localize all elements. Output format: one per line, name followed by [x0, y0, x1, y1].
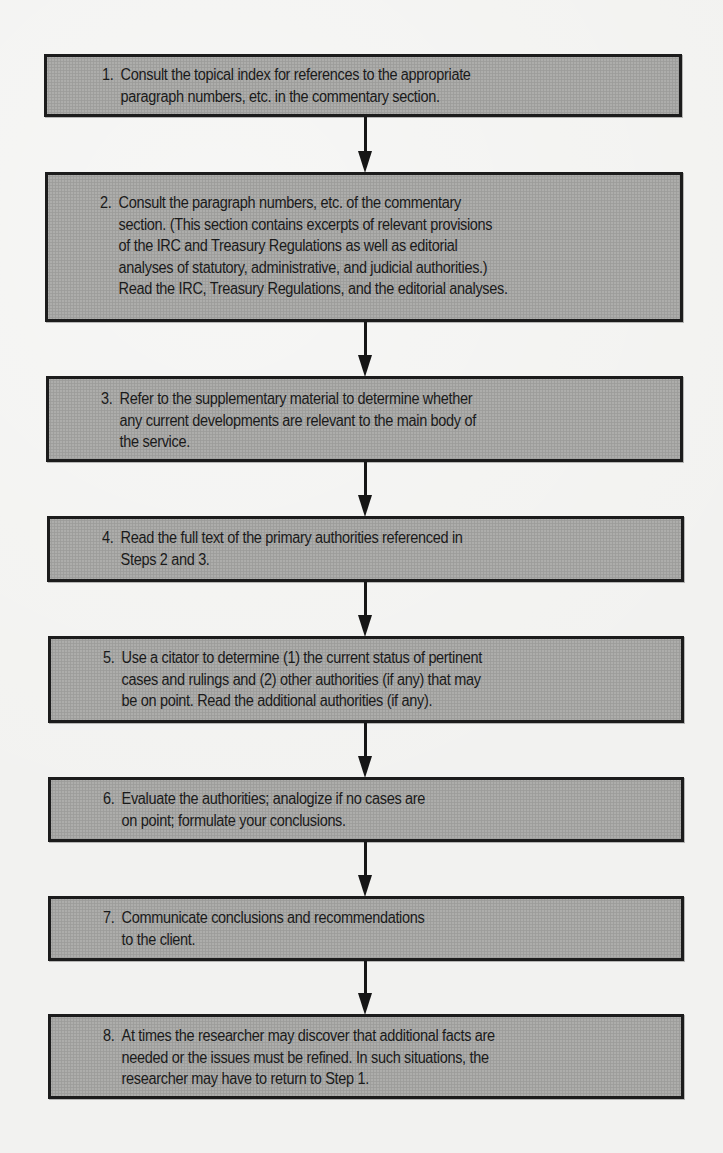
- arrow-5-to-6: [358, 723, 372, 778]
- step-6-number: 6.: [103, 788, 114, 810]
- arrow-6-to-7: [358, 842, 372, 897]
- arrowhead-icon: [358, 615, 372, 637]
- step-3-line-2: any current developments are relevant to…: [101, 410, 476, 432]
- step-4-text: 4.Read the full text of the primary auth…: [102, 527, 622, 570]
- step-2-line-5: Read the IRC, Treasury Regulations, and …: [100, 278, 508, 300]
- step-7-line-2: to the client.: [103, 929, 195, 951]
- arrowhead-icon: [358, 355, 372, 377]
- arrow-4-to-5: [358, 582, 372, 637]
- step-2-line-1: Consult the paragraph numbers, etc. of t…: [100, 192, 461, 214]
- step-4-line-1: Read the full text of the primary author…: [102, 527, 463, 549]
- step-1-line-2: paragraph numbers, etc. in the commentar…: [102, 86, 440, 108]
- step-5-line-3: be on point. Read the additional authori…: [103, 690, 432, 712]
- arrowhead-icon: [358, 756, 372, 778]
- arrow-7-to-8: [358, 961, 372, 1015]
- step-8-line-2: needed or the issues must be refined. In…: [103, 1047, 489, 1069]
- arrowhead-icon: [358, 875, 372, 897]
- step-3-text: 3.Refer to the supplementary material to…: [101, 388, 621, 453]
- step-8-text: 8.At times the researcher may discover t…: [103, 1025, 622, 1090]
- step-6-line-2: on point; formulate your conclusions.: [103, 810, 346, 832]
- step-6-text: 6.Evaluate the authorities; analogize if…: [103, 788, 622, 831]
- step-8-number: 8.: [103, 1025, 114, 1047]
- step-2-line-4: analyses of statutory, administrative, a…: [100, 257, 487, 279]
- step-8-line-1: At times the researcher may discover tha…: [103, 1025, 495, 1047]
- step-6-box: 6.Evaluate the authorities; analogize if…: [48, 777, 684, 842]
- step-7-number: 7.: [103, 907, 114, 929]
- step-3-box: 3.Refer to the supplementary material to…: [46, 376, 683, 462]
- step-4-line-2: Steps 2 and 3.: [102, 549, 210, 571]
- step-1-line-1: Consult the topical index for references…: [102, 64, 471, 86]
- step-8-box: 8.At times the researcher may discover t…: [48, 1014, 684, 1099]
- step-1-number: 1.: [102, 64, 113, 86]
- arrow-2-to-3: [358, 322, 372, 377]
- step-5-line-2: cases and rulings and (2) other authorit…: [103, 669, 481, 691]
- step-4-box: 4.Read the full text of the primary auth…: [47, 516, 684, 582]
- step-8-line-3: researcher may have to return to Step 1.: [103, 1068, 369, 1090]
- step-3-line-3: the service.: [101, 431, 190, 453]
- step-3-number: 3.: [101, 388, 112, 410]
- arrow-3-to-4: [358, 462, 372, 517]
- step-5-line-1: Use a citator to determine (1) the curre…: [103, 647, 482, 669]
- step-7-box: 7.Communicate conclusions and recommenda…: [48, 896, 684, 961]
- step-5-number: 5.: [103, 647, 114, 669]
- step-2-line-3: of the IRC and Treasury Regulations as w…: [100, 235, 457, 257]
- step-2-line-2: section. (This section contains excerpts…: [100, 214, 492, 236]
- step-7-text: 7.Communicate conclusions and recommenda…: [103, 907, 622, 950]
- step-2-box: 2.Consult the paragraph numbers, etc. of…: [45, 172, 683, 322]
- step-7-line-1: Communicate conclusions and recommendati…: [103, 907, 424, 929]
- step-5-text: 5.Use a citator to determine (1) the cur…: [103, 647, 622, 712]
- step-3-line-1: Refer to the supplementary material to d…: [101, 388, 472, 410]
- step-2-text: 2.Consult the paragraph numbers, etc. of…: [100, 192, 621, 300]
- step-1-text: 1.Consult the topical index for referenc…: [102, 64, 620, 107]
- step-5-box: 5.Use a citator to determine (1) the cur…: [48, 636, 684, 723]
- step-4-number: 4.: [102, 527, 113, 549]
- arrow-1-to-2: [358, 117, 372, 173]
- step-2-number: 2.: [100, 192, 111, 214]
- flowchart-page: 1.Consult the topical index for referenc…: [0, 0, 723, 1153]
- step-1-box: 1.Consult the topical index for referenc…: [44, 54, 682, 117]
- step-6-line-1: Evaluate the authorities; analogize if n…: [103, 788, 425, 810]
- arrowhead-icon: [358, 993, 372, 1015]
- arrowhead-icon: [358, 495, 372, 517]
- arrowhead-icon: [358, 151, 372, 173]
